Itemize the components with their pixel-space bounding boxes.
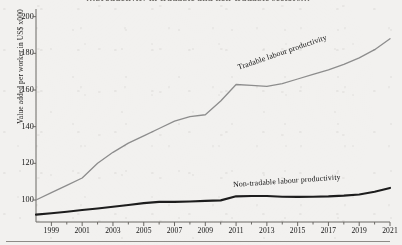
footer-rule <box>6 241 390 242</box>
series-line-non-tradable <box>36 188 390 215</box>
